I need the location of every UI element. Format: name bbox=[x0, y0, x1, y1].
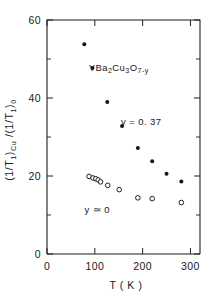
annotation-compound: YBa2Cu3O7-y bbox=[89, 62, 149, 76]
annotation-series-1: y = 0. 37 bbox=[121, 116, 161, 127]
data-point bbox=[165, 172, 169, 176]
data-point bbox=[82, 42, 86, 46]
y-tick-label: 40 bbox=[29, 92, 41, 104]
x-tick-label: 200 bbox=[133, 260, 152, 272]
data-point bbox=[179, 179, 183, 183]
x-axis-tick-labels: 0100200300 bbox=[44, 260, 200, 272]
data-series-open bbox=[87, 174, 184, 205]
svg-text:y = 0. 37: y = 0. 37 bbox=[121, 116, 161, 127]
svg-text:YBa2Cu3O7-y: YBa2Cu3O7-y bbox=[89, 62, 149, 76]
svg-text:T ( K ): T ( K ) bbox=[109, 279, 142, 291]
y-tick-label: 20 bbox=[29, 170, 41, 182]
y-axis-title: (1/T1)Cu /(1/T1)0 bbox=[3, 99, 18, 181]
x-tick-label: 0 bbox=[44, 260, 50, 272]
y-axis-ticks bbox=[47, 20, 200, 254]
annotation-series-2: y ≃ 0 bbox=[85, 204, 110, 215]
data-point bbox=[150, 159, 154, 163]
x-axis-ticks bbox=[47, 20, 190, 254]
data-point bbox=[136, 146, 140, 150]
data-point bbox=[98, 180, 103, 185]
y-tick-label: 0 bbox=[35, 248, 41, 260]
data-point bbox=[150, 196, 155, 201]
data-point bbox=[117, 187, 122, 192]
data-point bbox=[136, 196, 141, 201]
data-point bbox=[105, 183, 110, 188]
data-point bbox=[105, 100, 109, 104]
chart-svg: 0204060 0100200300 YBa2Cu3O7-y y = 0. 37… bbox=[0, 0, 212, 294]
x-tick-label: 100 bbox=[85, 260, 104, 272]
y-tick-label: 60 bbox=[29, 14, 41, 26]
y-axis-tick-labels: 0204060 bbox=[29, 14, 41, 260]
plot-frame bbox=[47, 20, 200, 254]
x-tick-label: 300 bbox=[181, 260, 200, 272]
data-point bbox=[179, 200, 184, 205]
svg-text:(1/T1)Cu /(1/T1)0: (1/T1)Cu /(1/T1)0 bbox=[3, 99, 18, 181]
svg-text:y ≃ 0: y ≃ 0 bbox=[85, 204, 110, 215]
figure-container: 0204060 0100200300 YBa2Cu3O7-y y = 0. 37… bbox=[0, 0, 212, 294]
x-axis-title: T ( K ) bbox=[109, 279, 142, 291]
